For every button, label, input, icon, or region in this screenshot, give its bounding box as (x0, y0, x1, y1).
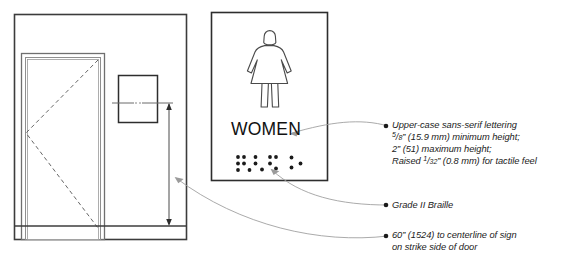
bullet-braille (384, 203, 389, 208)
bullet-lettering (384, 124, 389, 129)
restroom-sign-panel-group (212, 13, 328, 181)
diagram-canvas (0, 0, 570, 270)
note-bullets-group (384, 124, 389, 239)
technical-diagram: WOMEN Upper-case sans-serif lettering 5/… (0, 0, 570, 270)
wall-sign-rectangle (119, 76, 158, 123)
bullet-mounting (384, 234, 389, 239)
door-elevation-group (15, 15, 187, 240)
door-leaf (28, 60, 99, 240)
leader-line-mounting (176, 178, 388, 238)
